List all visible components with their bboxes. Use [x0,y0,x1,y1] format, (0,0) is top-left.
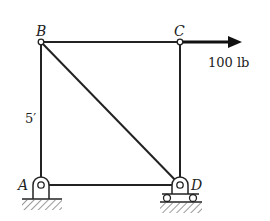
label-C: C [174,23,185,39]
member-BD [41,42,180,185]
load-label: 100 lb [208,55,249,70]
label-D: D [190,177,202,193]
label-B: B [35,23,46,39]
joint-C [177,39,183,45]
label-A: A [16,177,28,193]
truss-diagram: B C A D 100 lb 5′ [0,0,270,221]
dimension-label: 5′ [25,111,36,126]
load-arrow [180,36,242,48]
joint-A [38,182,44,188]
joint-B [38,39,44,45]
joint-D [177,182,183,188]
truss-svg: B C A D 100 lb 5′ [0,0,270,221]
